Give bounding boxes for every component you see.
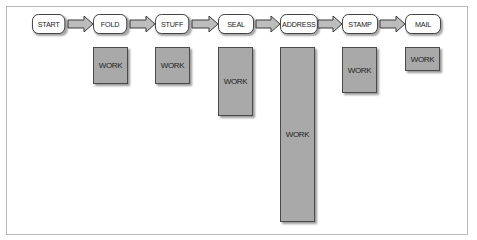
work-label: WORK: [411, 55, 435, 64]
arrow-right-icon: [67, 15, 94, 33]
work-label: WORK: [224, 77, 248, 86]
work-label: WORK: [161, 61, 185, 70]
arrow-right-icon: [129, 15, 156, 33]
work-label: WORK: [99, 61, 123, 70]
stage-label: FOLD: [101, 20, 119, 29]
stage-label: START: [38, 20, 60, 29]
stage-fold: FOLD: [93, 14, 127, 34]
work-box-seal: WORK: [218, 47, 253, 116]
arrow-right-icon: [191, 15, 219, 33]
stage-seal: SEAL: [218, 14, 254, 34]
stage-stuff: STUFF: [155, 14, 189, 34]
work-box-fold: WORK: [93, 47, 128, 84]
stage-label: MAIL: [415, 20, 431, 29]
stage-label: STAMP: [348, 20, 371, 29]
stage-label: ADDRESS: [282, 20, 316, 29]
work-box-mail: WORK: [405, 47, 440, 71]
arrow-right-icon: [379, 15, 406, 33]
stage-start: START: [32, 14, 65, 34]
stage-stamp: STAMP: [342, 14, 378, 34]
stage-label: STUFF: [161, 20, 183, 29]
work-box-address: WORK: [280, 47, 315, 222]
work-label: WORK: [286, 130, 310, 139]
arrow-right-icon: [317, 15, 343, 33]
stage-address: ADDRESS: [280, 14, 318, 34]
arrow-right-icon: [255, 15, 281, 33]
diagram-frame: [6, 6, 468, 235]
stage-mail: MAIL: [405, 14, 441, 34]
work-label: WORK: [348, 66, 372, 75]
work-box-stuff: WORK: [155, 47, 190, 84]
stage-label: SEAL: [227, 20, 245, 29]
work-box-stamp: WORK: [342, 47, 377, 93]
